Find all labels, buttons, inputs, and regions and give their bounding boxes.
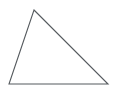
triangle-shape [9, 10, 108, 84]
triangle-svg [0, 0, 115, 97]
figure-canvas [0, 0, 115, 97]
